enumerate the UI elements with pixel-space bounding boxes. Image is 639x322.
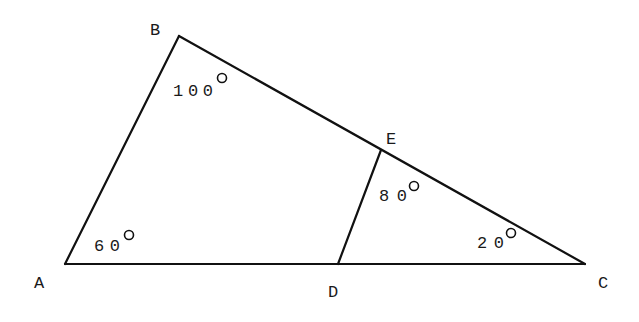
degree-icon: [410, 182, 419, 191]
degree-icon: [507, 229, 516, 238]
angle-label-b: 100: [173, 82, 213, 101]
degree-icon: [218, 74, 227, 83]
vertex-label-e: E: [386, 130, 396, 149]
segment-de: [338, 150, 381, 264]
angle-label-e: 80: [379, 187, 407, 206]
triangle-diagram: A B C D E 100 60 80 20: [0, 0, 639, 322]
vertex-label-a: A: [34, 274, 45, 293]
angle-label-c: 20: [477, 234, 504, 253]
angle-label-a: 60: [94, 237, 120, 256]
degree-icon: [125, 231, 134, 240]
segment-ab: [65, 36, 179, 264]
vertex-label-d: D: [328, 283, 338, 302]
vertex-label-b: B: [150, 21, 160, 40]
vertex-label-c: C: [598, 274, 608, 293]
